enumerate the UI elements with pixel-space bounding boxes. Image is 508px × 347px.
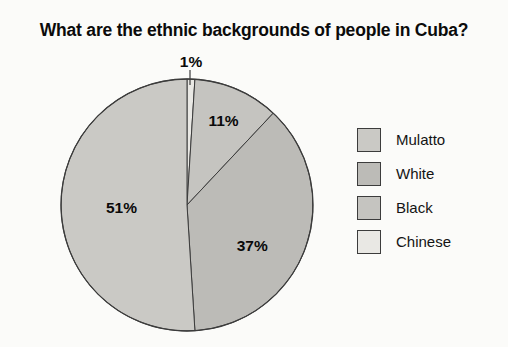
- slice-label-white: 37%: [237, 237, 268, 254]
- legend-swatch-black: [357, 196, 381, 220]
- legend-swatch-chinese: [357, 230, 381, 254]
- legend-label-white: White: [396, 165, 434, 182]
- legend-swatch-mulatto: [357, 128, 381, 152]
- legend-item-white: White: [357, 161, 451, 186]
- legend-label-black: Black: [396, 199, 433, 216]
- legend-item-chinese: Chinese: [357, 229, 451, 254]
- slice-label-mulatto: 51%: [106, 199, 137, 216]
- legend-label-mulatto: Mulatto: [396, 131, 445, 148]
- legend-item-black: Black: [357, 195, 451, 220]
- legend-swatch-white: [357, 162, 381, 186]
- slice-label-chinese: 1%: [180, 53, 203, 70]
- legend-item-mulatto: Mulatto: [357, 127, 451, 152]
- slice-label-black: 11%: [208, 112, 238, 129]
- legend-label-chinese: Chinese: [396, 233, 451, 250]
- legend: Mulatto White Black Chinese: [357, 127, 451, 263]
